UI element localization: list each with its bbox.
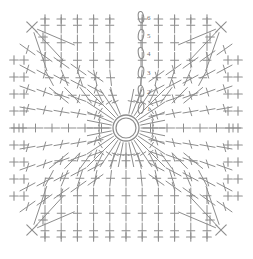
chart-canvas: 123456 — [0, 0, 253, 259]
round-label-2: 2 — [147, 88, 151, 96]
round-label-6: 6 — [147, 14, 151, 22]
round-label-5: 5 — [147, 32, 151, 40]
round-label-4: 4 — [147, 50, 151, 58]
crochet-chart-diagram: 123456 — [0, 0, 253, 259]
round-label-1: 1 — [147, 105, 151, 113]
round-label-3: 3 — [147, 69, 151, 77]
